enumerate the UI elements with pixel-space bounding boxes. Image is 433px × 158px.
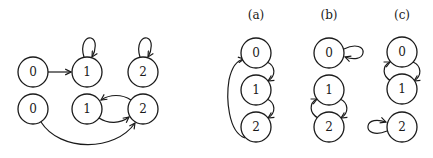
node-label: 2 xyxy=(325,120,333,134)
panel-c: (c) 0 1 2 xyxy=(368,8,420,142)
edge-1-to-2 xyxy=(340,99,347,118)
node-2: 2 xyxy=(387,112,417,142)
panel-b: (b) 0 1 2 xyxy=(311,8,363,142)
node-label: 0 xyxy=(398,45,406,59)
self-loop-1 xyxy=(83,38,96,57)
edge-0-to-1 xyxy=(413,62,420,81)
node-label: 2 xyxy=(139,65,147,79)
node-label: 1 xyxy=(83,65,91,79)
node-2: 2 xyxy=(314,112,344,142)
node-label: 0 xyxy=(325,46,333,60)
self-loop-0 xyxy=(344,46,363,59)
edge-0-to-1 xyxy=(267,62,274,81)
node-label: 0 xyxy=(252,46,260,60)
node-label: 1 xyxy=(398,82,406,96)
node-1: 1 xyxy=(72,57,102,87)
edge-1-to-2 xyxy=(99,117,129,122)
panel-label-b: (b) xyxy=(320,8,337,22)
self-loop-2 xyxy=(368,120,387,133)
panel-a: (a) 0 1 2 xyxy=(228,8,274,142)
node-0: 0 xyxy=(18,57,48,87)
node-2: 2 xyxy=(241,112,271,142)
node-1: 1 xyxy=(241,75,271,105)
node-label: 1 xyxy=(252,83,260,97)
node-label: 0 xyxy=(29,65,37,79)
node-1: 1 xyxy=(314,75,344,105)
node-2: 2 xyxy=(128,57,158,87)
edge-1-to-2 xyxy=(267,99,274,118)
edge-2-to-1 xyxy=(311,99,318,118)
node-0: 0 xyxy=(387,37,417,67)
edge-0-to-2 xyxy=(41,122,135,145)
node-label: 2 xyxy=(139,102,147,116)
left-bottom-row: 0 1 2 xyxy=(18,94,158,145)
node-2: 2 xyxy=(128,94,158,124)
self-loop-2 xyxy=(139,38,152,57)
node-0: 0 xyxy=(314,38,344,68)
edge-2-to-1 xyxy=(101,96,131,101)
state-transition-diagram: 0 1 2 0 1 2 (a) xyxy=(0,0,433,158)
node-1: 1 xyxy=(387,74,417,104)
edge-1-to-0 xyxy=(384,62,391,81)
node-0: 0 xyxy=(241,38,271,68)
node-label: 1 xyxy=(325,83,333,97)
node-label: 1 xyxy=(83,102,91,116)
node-0: 0 xyxy=(18,94,48,124)
node-label: 2 xyxy=(398,120,406,134)
node-label: 2 xyxy=(252,120,260,134)
left-top-row: 0 1 2 xyxy=(18,38,158,87)
node-1: 1 xyxy=(72,94,102,124)
panel-label-a: (a) xyxy=(248,8,265,22)
node-label: 0 xyxy=(29,102,37,116)
panel-label-c: (c) xyxy=(394,8,410,22)
